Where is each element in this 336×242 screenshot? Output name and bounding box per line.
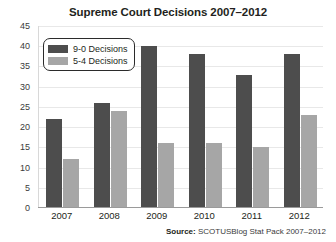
y-axis-tick-label: 35 [20, 61, 30, 71]
legend-swatch-icon [48, 45, 68, 53]
bar [63, 159, 79, 208]
bar [301, 115, 317, 208]
y-axis-tick-label: 20 [20, 122, 30, 132]
source-note: Source: SCOTUSBlog Stat Pack 2007–2012 [166, 227, 326, 236]
y-axis-tick-label: 40 [20, 41, 30, 51]
y-axis-tick-label: 45 [20, 21, 30, 31]
y-axis-tick-label: 25 [20, 102, 30, 112]
y-axis-tick-label: 10 [20, 163, 30, 173]
bar [141, 46, 157, 208]
bar [94, 103, 110, 208]
x-axis-tick-label: 2007 [51, 210, 72, 221]
legend-swatch-icon [48, 57, 68, 65]
x-axis-line [38, 207, 323, 208]
chart-figure: Supreme Court Decisions 2007–2012 051015… [0, 0, 336, 242]
legend-label: 9-0 Decisions [73, 44, 128, 54]
source-label: Source: [166, 227, 196, 236]
bar-group [133, 26, 181, 208]
bar-group [181, 26, 229, 208]
legend-item: 9-0 Decisions [48, 43, 128, 54]
legend-item: 5-4 Decisions [48, 55, 128, 66]
chart-legend: 9-0 Decisions5-4 Decisions [43, 38, 135, 71]
bar [111, 111, 127, 208]
bar [158, 143, 174, 208]
source-text: SCOTUSBlog Stat Pack 2007–2012 [196, 227, 326, 236]
chart-title: Supreme Court Decisions 2007–2012 [0, 6, 336, 18]
y-axis-tick-label: 30 [20, 82, 30, 92]
bar [284, 54, 300, 208]
legend-label: 5-4 Decisions [73, 56, 128, 66]
x-axis-tick-label: 2008 [99, 210, 120, 221]
x-axis-labels: 200720082009201020112012 [38, 210, 323, 226]
bar-group [276, 26, 324, 208]
bar [253, 147, 269, 208]
y-axis-tick-label: 0 [25, 203, 30, 213]
bar [206, 143, 222, 208]
y-axis-tick-label: 15 [20, 142, 30, 152]
x-axis-tick-label: 2012 [289, 210, 310, 221]
x-axis-tick-label: 2009 [146, 210, 167, 221]
bar [46, 119, 62, 208]
y-axis-tick-label: 5 [25, 183, 30, 193]
x-axis-tick-label: 2011 [242, 210, 262, 221]
bar [189, 54, 205, 208]
x-axis-tick-label: 2010 [194, 210, 215, 221]
bar [236, 75, 252, 208]
y-axis-labels: 051015202530354045 [0, 26, 34, 208]
bar-group [228, 26, 276, 208]
